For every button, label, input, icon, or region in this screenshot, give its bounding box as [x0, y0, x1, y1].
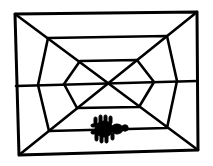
spider-web-diagram [0, 0, 213, 166]
spider-icon [91, 115, 128, 143]
